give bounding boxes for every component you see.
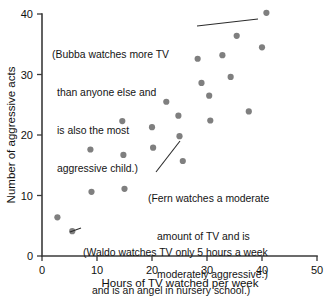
annotation-bubba-line-2: is also the most [52,125,169,138]
data-point [228,74,234,80]
data-point [219,52,225,58]
y-tick-label: 30 [21,69,33,81]
y-tick-label: 0 [27,250,33,262]
annotation-waldo: (Waldo watches TV only 5 hours a week an… [83,222,268,300]
data-point [263,10,269,16]
leader-line-bubba [197,19,258,26]
data-point [259,44,265,50]
annotation-waldo-line-1: and is an angel in nursery school.) [83,285,268,298]
data-point [207,117,213,123]
data-point [206,93,212,99]
data-point [234,33,240,39]
annotation-bubba-line-1: than anyone else and [52,87,169,100]
data-point [198,80,204,86]
y-tick-label: 20 [21,129,33,141]
y-axis-title: Number of aggressive acts [5,66,17,203]
data-point [246,108,252,114]
x-tick-label: 50 [311,264,323,276]
x-tick-label: 0 [39,264,45,276]
y-axis-ticks: 010203040 [21,8,42,262]
y-tick-label: 40 [21,8,33,20]
annotation-bubba-line-0: (Bubba watches more TV [52,49,169,62]
data-point [176,133,182,139]
y-tick-label: 10 [21,190,33,202]
data-point [175,113,181,119]
annotation-fern-line-0: (Fern watches a moderate [148,193,269,206]
data-point [195,56,201,62]
data-point [180,158,186,164]
annotation-waldo-line-0: (Waldo watches TV only 5 hours a week [83,247,268,260]
data-point [54,214,60,220]
